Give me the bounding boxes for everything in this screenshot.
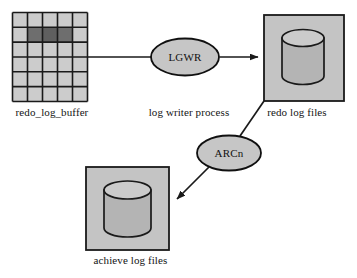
redo-log-files-cylinder-icon (282, 30, 324, 85)
redo-log-files-caption: redo log files (245, 106, 349, 118)
connector-arcn-to-achieve-log-files (177, 167, 209, 199)
arcn-node-label: ARCn (215, 147, 244, 159)
achieve-log-files-caption: achieve log files (74, 254, 187, 266)
achieve-log-files-node[interactable] (86, 167, 169, 250)
diagram-canvas: LGWR ARCn redo (0, 0, 357, 278)
redo-log-files-node[interactable] (264, 15, 344, 101)
lgwr-node-label: LGWR (168, 51, 202, 63)
achieve-log-files-cylinder-icon (104, 181, 151, 237)
diagram-graphics: LGWR ARCn (0, 0, 357, 278)
redo-log-buffer-grid[interactable] (13, 13, 88, 102)
lgwr-node[interactable]: LGWR (151, 39, 219, 76)
redo-log-buffer-caption: redo_log_buffer (0, 106, 104, 118)
arcn-node[interactable]: ARCn (197, 136, 261, 171)
log-writer-process-caption: log writer process (134, 106, 244, 118)
grid-highlighted-cells (28, 27, 73, 42)
